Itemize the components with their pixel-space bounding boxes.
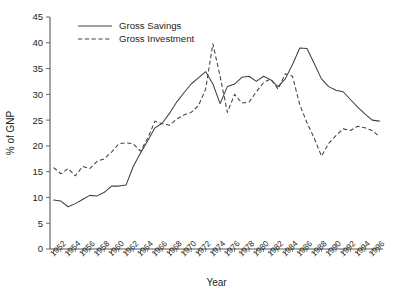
series-line-1	[54, 44, 380, 176]
legend-label-0: Gross Savings	[119, 20, 182, 31]
y-axis-tick-labels: 051015202530354045	[32, 11, 43, 254]
chart-container: 051015202530354045 % of GNP 195219541956…	[0, 0, 409, 293]
chart-legend: Gross SavingsGross Investment	[78, 20, 195, 44]
legend-label-1: Gross Investment	[119, 33, 195, 44]
y-axis-group: 051015202530354045 % of GNP	[5, 11, 50, 254]
y-axis-ticks	[46, 17, 50, 249]
x-axis-tick-labels: 1952195419561958196019621964196619681970…	[49, 239, 387, 259]
x-axis-title: Year	[206, 277, 227, 288]
y-tick-label: 20	[32, 140, 43, 151]
y-tick-label: 25	[32, 115, 43, 126]
y-tick-label: 30	[32, 89, 43, 100]
y-tick-label: 10	[32, 192, 43, 203]
y-tick-label: 40	[32, 37, 43, 48]
y-tick-label: 5	[38, 218, 43, 229]
y-tick-label: 15	[32, 166, 43, 177]
series-line-0	[54, 48, 380, 207]
y-tick-label: 45	[32, 11, 43, 22]
y-tick-label: 35	[32, 63, 43, 74]
data-series-group	[54, 44, 380, 207]
x-tick-label: 1996	[367, 239, 387, 259]
y-tick-label: 0	[38, 243, 43, 254]
line-chart: 051015202530354045 % of GNP 195219541956…	[0, 0, 409, 293]
x-axis-group: 1952195419561958196019621964196619681970…	[49, 239, 387, 288]
y-axis-title: % of GNP	[5, 110, 16, 155]
